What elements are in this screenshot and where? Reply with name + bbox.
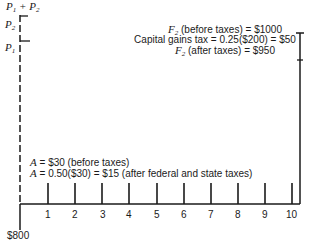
p1-label: P1 — [5, 42, 15, 53]
period-label: 6 — [181, 209, 187, 220]
period-label: 8 — [235, 209, 241, 220]
period-label: 4 — [126, 209, 132, 220]
p1-plus-p2-label: P1 + P2 — [6, 1, 39, 12]
p2-label: P2 — [5, 19, 15, 30]
period-label: 3 — [100, 209, 106, 220]
period-label: 5 — [154, 209, 160, 220]
period-label: 7 — [208, 209, 214, 220]
annuity-arrows — [48, 183, 292, 204]
period-label: 10 — [286, 209, 297, 220]
initial-investment-label: $800 — [7, 230, 29, 241]
period-label: 9 — [262, 209, 268, 220]
capital-gains-tax-label: Capital gains tax = 0.25($200) = $50 — [130, 34, 300, 45]
annuity-before-taxes-label: A = $30 (before taxes) — [30, 157, 129, 168]
f2-after-taxes-label: F2 (after taxes) = $950 — [160, 45, 290, 56]
period-label: 1 — [45, 209, 51, 220]
annuity-after-taxes-label: A = 0.50($30) = $15 (after federal and s… — [30, 168, 252, 179]
period-label: 2 — [72, 209, 78, 220]
